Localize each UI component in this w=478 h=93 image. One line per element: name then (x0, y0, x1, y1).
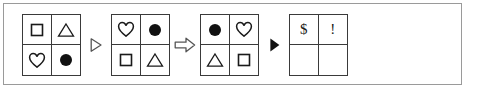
square-outline-icon (118, 52, 134, 68)
panel-4-grid: $ ! (289, 14, 348, 76)
heart-outline-icon (117, 21, 135, 38)
panel-3-cell-bottom-right (230, 45, 259, 75)
panel-2-grid (111, 14, 170, 76)
panel-2-cell-top-left (112, 15, 141, 45)
panel-4-cell-bottom-right (319, 45, 348, 75)
sequence-row: $ ! (22, 12, 348, 78)
panel-2-cell-top-right (141, 15, 170, 45)
panel-2-cell-bottom-left (112, 45, 141, 75)
triangle-right-outline-icon (89, 37, 103, 53)
panel-1-cell-top-left (23, 15, 52, 45)
panel-3-grid (200, 14, 259, 76)
panel-3-cell-bottom-left (201, 45, 230, 75)
triangle-outline-icon (146, 52, 164, 68)
puzzle-frame: $ ! (3, 3, 462, 85)
panel-4-cell-top-left: $ (290, 15, 319, 45)
circle-filled-icon (147, 22, 163, 38)
separator-1 (81, 14, 111, 76)
exclamation-mark-glyph: ! (330, 22, 335, 37)
panel-1-cell-bottom-right (52, 45, 81, 75)
circle-filled-icon (207, 22, 223, 38)
panel-4-cell-bottom-left (290, 45, 319, 75)
panel-1-cell-bottom-left (23, 45, 52, 75)
panel-4-cell-top-right: ! (319, 15, 348, 45)
separator-2 (170, 14, 200, 76)
circle-filled-icon (58, 52, 74, 68)
separator-3 (259, 14, 289, 76)
panel-1-cell-top-right (52, 15, 81, 45)
triangle-outline-icon (206, 52, 224, 68)
heart-outline-icon (235, 21, 253, 38)
square-outline-icon (29, 22, 45, 38)
triangle-right-filled-icon (268, 37, 281, 53)
panel-1-grid (22, 14, 81, 76)
panel-3-cell-top-left (201, 15, 230, 45)
block-arrow-right-outline-icon (174, 36, 196, 54)
dollar-sign-glyph: $ (300, 22, 308, 37)
panel-3-cell-top-right (230, 15, 259, 45)
panel-2-cell-bottom-right (141, 45, 170, 75)
triangle-outline-icon (57, 22, 75, 38)
square-outline-icon (236, 52, 252, 68)
heart-outline-icon (28, 52, 46, 69)
